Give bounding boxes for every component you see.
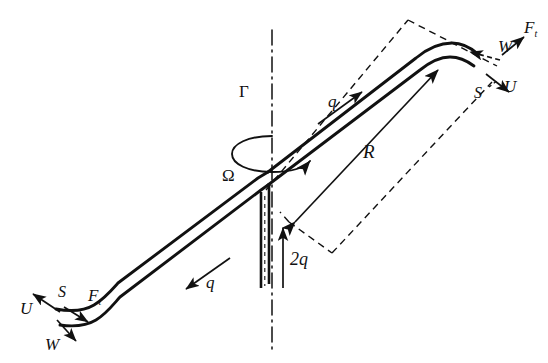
label-gamma-axis: Γ [239, 83, 249, 100]
label-relative-velocity-W-lower: W [45, 336, 59, 353]
label-Ft-upper-sub: t [534, 28, 537, 39]
label-lower-arm-flow-q: q [206, 274, 215, 291]
label-omega-angular-speed: Ω [222, 167, 235, 184]
rotor-tube-upper-outer [268, 57, 474, 185]
diagram-canvas [0, 0, 548, 363]
label-relative-velocity-W-upper: W [498, 38, 512, 55]
rotation-arrow-omega [232, 136, 310, 172]
label-tangential-force-Ft-lower: Ft [88, 287, 101, 307]
vector-W-lower [57, 320, 76, 341]
segner-wheel-diagram: Γ Ω R 2q q q S U W Ft S U W Ft [0, 0, 548, 363]
label-Ft-lower-sub: t [98, 296, 101, 307]
label-nozzle-S-lower: S [58, 284, 66, 300]
label-blade-speed-U-lower: U [20, 300, 32, 317]
vector-U-lower [33, 294, 60, 312]
label-radius-R: R [363, 142, 375, 161]
label-nozzle-S-upper: S [474, 85, 482, 101]
label-Ft-upper-main: F [524, 18, 534, 37]
label-inlet-flow-2q: 2q [290, 250, 308, 268]
label-Ft-lower-main: F [88, 286, 98, 305]
label-blade-speed-U-upper: U [504, 78, 516, 95]
inlet-tube [261, 185, 269, 288]
label-tangential-force-Ft-upper: Ft [524, 19, 537, 39]
construction-lines-lower [280, 82, 492, 253]
label-upper-arm-flow-q: q [328, 93, 337, 110]
vector-W-upper [470, 52, 500, 60]
